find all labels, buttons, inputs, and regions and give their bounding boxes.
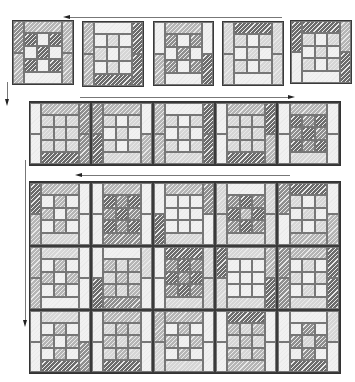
center-square xyxy=(177,47,189,60)
border-bottom-piece xyxy=(234,73,272,85)
center-square xyxy=(177,60,189,73)
border-top-piece xyxy=(24,21,62,33)
border-right-piece xyxy=(132,22,143,54)
center-square xyxy=(24,59,37,72)
border-right-piece xyxy=(62,21,73,53)
border-top-piece xyxy=(165,22,202,34)
border-right-piece xyxy=(340,21,351,52)
center-square xyxy=(234,34,247,47)
center-square xyxy=(37,46,50,59)
center-square xyxy=(24,46,37,59)
center-square xyxy=(315,33,328,46)
center-square xyxy=(94,61,107,74)
center-square xyxy=(107,34,120,47)
border-right-piece xyxy=(272,22,283,54)
border-top-piece xyxy=(302,21,340,33)
center-square xyxy=(315,58,328,71)
grid-frame xyxy=(29,101,341,166)
center-square xyxy=(119,61,132,74)
quilt-block xyxy=(82,21,144,87)
center-square xyxy=(37,59,50,72)
grid-frame xyxy=(29,181,341,374)
center-square xyxy=(37,33,50,46)
quilt-block xyxy=(290,20,352,84)
border-left-piece xyxy=(13,21,24,53)
center-square xyxy=(165,47,177,60)
center-square xyxy=(190,34,202,47)
center-square xyxy=(49,33,62,46)
center-square xyxy=(49,46,62,59)
center-square xyxy=(107,61,120,74)
border-left-piece xyxy=(83,22,94,54)
border-left-piece xyxy=(13,53,24,84)
arrow-row3-left-line xyxy=(80,175,290,176)
border-bottom-piece xyxy=(24,72,62,84)
center-square xyxy=(315,46,328,59)
center-square xyxy=(234,60,247,73)
border-left-piece xyxy=(154,22,165,54)
border-right-piece xyxy=(132,54,143,86)
border-right-piece xyxy=(202,54,213,85)
center-square xyxy=(247,47,260,60)
arrow-top-left-line xyxy=(68,17,282,18)
arrow-row2-right-head-icon xyxy=(288,95,295,99)
border-right-piece xyxy=(272,54,283,85)
border-top-piece xyxy=(94,22,132,34)
center-square xyxy=(327,46,340,59)
center-square xyxy=(327,33,340,46)
center-square xyxy=(24,33,37,46)
arrow-row2-right-line xyxy=(80,97,290,98)
arrow-down-2-line xyxy=(25,160,26,322)
center-square xyxy=(119,34,132,47)
center-square xyxy=(107,47,120,60)
arrow-top-left-head-icon xyxy=(63,15,70,19)
border-left-piece xyxy=(223,54,234,85)
border-top-piece xyxy=(234,22,272,34)
border-left-piece xyxy=(223,22,234,54)
border-left-piece xyxy=(291,52,302,83)
center-square xyxy=(165,34,177,47)
center-square xyxy=(302,46,315,59)
border-right-piece xyxy=(62,53,73,84)
center-square xyxy=(302,58,315,71)
center-square xyxy=(247,60,260,73)
center-square xyxy=(247,34,260,47)
border-bottom-piece xyxy=(94,74,132,86)
border-left-piece xyxy=(291,21,302,52)
center-square xyxy=(259,60,272,73)
arrow-row3-left-head-icon xyxy=(75,173,82,177)
border-left-piece xyxy=(83,54,94,86)
center-square xyxy=(190,47,202,60)
center-square xyxy=(190,60,202,73)
quilt-block xyxy=(12,20,74,85)
center-square xyxy=(327,58,340,71)
quilt-block xyxy=(222,21,284,86)
arrow-down-2-head-icon xyxy=(23,320,27,327)
border-right-piece xyxy=(202,22,213,54)
border-right-piece xyxy=(340,52,351,83)
center-square xyxy=(234,47,247,60)
quilt-block xyxy=(153,21,214,86)
center-square xyxy=(165,60,177,73)
center-square xyxy=(259,47,272,60)
center-square xyxy=(177,34,189,47)
center-square xyxy=(302,33,315,46)
arrow-down-1-head-icon xyxy=(5,99,9,106)
center-square xyxy=(259,34,272,47)
center-square xyxy=(94,34,107,47)
border-bottom-piece xyxy=(165,73,202,85)
center-square xyxy=(49,59,62,72)
border-left-piece xyxy=(154,54,165,85)
center-square xyxy=(94,47,107,60)
center-square xyxy=(119,47,132,60)
border-bottom-piece xyxy=(302,71,340,83)
